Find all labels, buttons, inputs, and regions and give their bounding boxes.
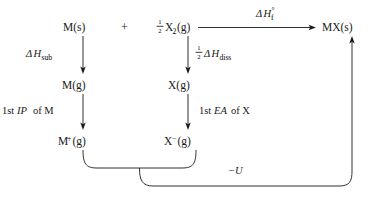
halide-anion-charge: −: [172, 134, 176, 143]
species-halogen-atom-gas: X(g): [168, 79, 190, 92]
dissociation-delta: Δ: [203, 48, 210, 59]
dissociation-subscript: diss: [220, 53, 232, 62]
electron-affinity-suffix: of X: [231, 105, 250, 116]
species-metal-gas: M(g): [62, 79, 86, 92]
ionization-symbol: IP: [16, 105, 27, 116]
species-metal-solid: M(s): [63, 21, 86, 34]
electron-affinity-symbol: EA: [213, 105, 227, 116]
species-half-halogen-gas: 1 2 X 2 (g): [157, 18, 191, 36]
label-enthalpy-of-sublimation: Δ H sub: [25, 48, 52, 62]
species-metal-cation: M + (g): [58, 134, 86, 149]
formation-delta: Δ: [255, 8, 262, 19]
lattice-brace: [83, 150, 196, 168]
species-product-mx: MX(s): [322, 21, 353, 34]
label-first-electron-affinity: 1st EA of X: [199, 105, 250, 116]
label-lattice-energy: −U: [228, 165, 244, 176]
halogen-subscript: 2: [173, 27, 177, 36]
sublimation-delta: Δ: [25, 48, 32, 59]
born-haber-cycle-figure: M(s) + 1 2 X 2 (g) MX(s) Δ H ° f Δ H sub: [0, 0, 376, 202]
halide-anion-state: (g): [178, 135, 192, 148]
species-halide-anion: X − (g): [164, 134, 191, 149]
label-enthalpy-of-formation: Δ H ° f: [255, 6, 275, 22]
electron-affinity-prefix: 1st: [199, 105, 211, 116]
metal-cation-charge: +: [67, 134, 71, 143]
half-denominator: 2: [158, 27, 161, 34]
dissociation-half-numerator: 1: [197, 44, 200, 51]
plus-operator: +: [121, 20, 128, 34]
ionization-prefix: 1st: [2, 105, 14, 116]
label-enthalpy-of-dissociation: 1 2 Δ H diss: [196, 44, 232, 62]
ionization-suffix: of M: [33, 105, 54, 116]
halogen-state: (g): [177, 21, 191, 34]
label-first-ionization-potential: 1st IP of M: [2, 105, 54, 116]
half-numerator: 1: [158, 18, 161, 25]
cycle-diagram-canvas: M(s) + 1 2 X 2 (g) MX(s) Δ H ° f Δ H sub: [0, 0, 376, 202]
metal-cation-state: (g): [73, 135, 87, 148]
dissociation-half-denominator: 2: [197, 53, 200, 60]
sublimation-subscript: sub: [42, 53, 53, 62]
